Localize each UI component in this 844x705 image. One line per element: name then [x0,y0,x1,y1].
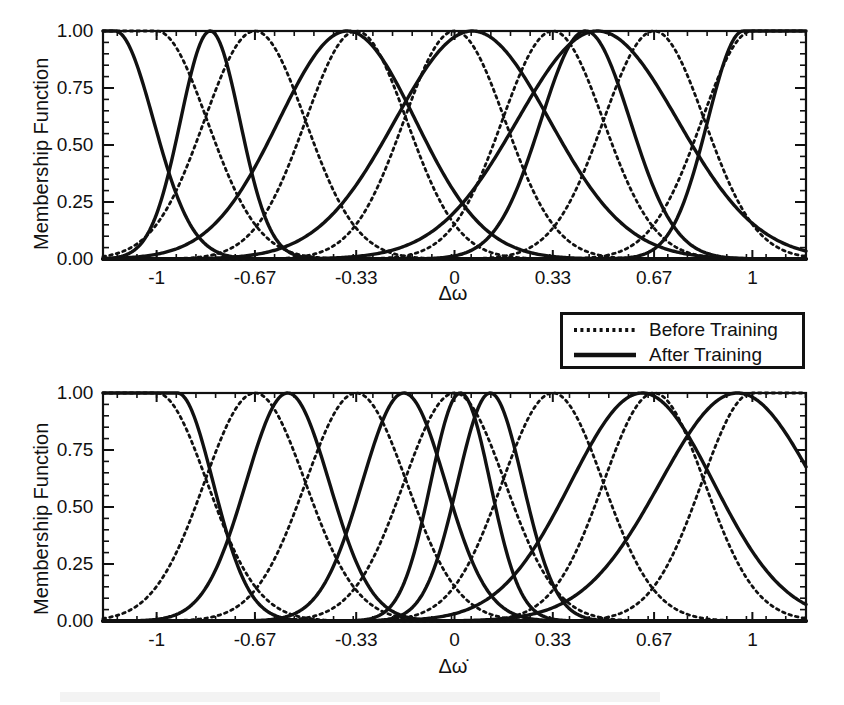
x-tick-label: 0 [449,267,459,289]
chart-panel-top: Membership Function Δω -1-0.67-0.3300.33… [0,0,844,310]
plot-area-bottom [0,365,844,685]
figure-membership-functions: Membership Function Δω -1-0.67-0.3300.33… [0,0,844,705]
x-axis-title-bottom: Δω̇ [439,655,468,678]
legend-label-after-training: After Training [649,344,762,366]
x-tick-label: -1 [148,267,165,289]
legend-label-before-training: Before Training [649,319,778,341]
legend: Before Training After Training [560,312,805,369]
x-tick-label: 0.33 [535,267,571,289]
x-tick-label: 0.33 [535,629,571,651]
plot-area-top [0,0,844,310]
caption-remnant [60,692,660,702]
legend-entry-after-training: After Training [563,342,802,367]
legend-swatch-dotted-line [573,323,637,337]
chart-panel-bottom: Membership Function Δω̇ -1-0.67-0.3300.3… [0,365,844,685]
y-tick-label: 1.00 [0,382,93,404]
y-tick-label: 0.25 [0,553,93,575]
x-tick-label: -0.67 [234,629,276,651]
y-tick-label: 0.50 [0,496,93,518]
x-tick-label: -0.33 [335,267,377,289]
y-tick-label: 1.00 [0,20,93,42]
x-tick-label: 0 [449,629,459,651]
x-tick-label: 0.67 [636,267,672,289]
x-tick-label: -0.67 [234,267,276,289]
y-tick-label: 0.75 [0,439,93,461]
y-tick-label: 0.00 [0,248,93,270]
x-tick-label: 0.67 [636,629,672,651]
y-tick-label: 0.00 [0,610,93,632]
x-tick-label: -0.33 [335,629,377,651]
x-tick-label: -1 [148,629,165,651]
legend-entry-before-training: Before Training [563,317,802,342]
y-tick-label: 0.75 [0,77,93,99]
y-tick-label: 0.50 [0,134,93,156]
x-tick-label: 1 [747,629,757,651]
x-tick-label: 1 [747,267,757,289]
y-tick-label: 0.25 [0,191,93,213]
legend-swatch-solid-line [573,348,637,362]
